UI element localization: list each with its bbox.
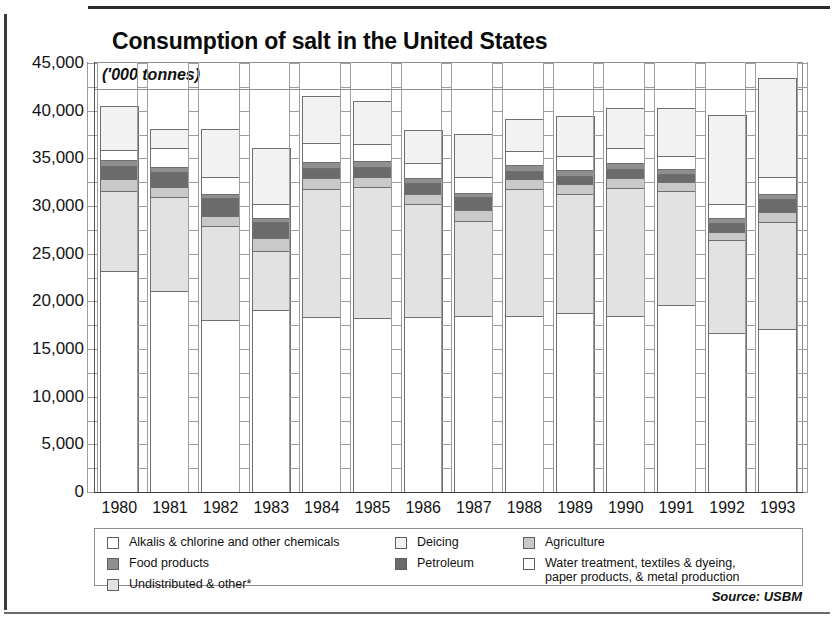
bar-segment[interactable] bbox=[606, 163, 645, 169]
bar-segment[interactable] bbox=[404, 163, 443, 178]
bar-segment[interactable] bbox=[353, 318, 392, 493]
bar-segment[interactable] bbox=[201, 177, 240, 193]
bar-column[interactable] bbox=[100, 62, 139, 493]
bar-column[interactable] bbox=[657, 62, 696, 493]
bar-segment[interactable] bbox=[708, 232, 747, 241]
bar-segment[interactable] bbox=[302, 178, 341, 188]
legend-item[interactable]: Alkalis & chlorine and other chemicals bbox=[107, 535, 407, 549]
bar-segment[interactable] bbox=[100, 106, 139, 150]
bar-segment[interactable] bbox=[505, 179, 544, 189]
bar-segment[interactable] bbox=[404, 183, 443, 193]
bar-segment[interactable] bbox=[505, 189, 544, 316]
bar-segment[interactable] bbox=[252, 218, 291, 223]
bar-segment[interactable] bbox=[150, 167, 189, 172]
legend-item[interactable]: Food products bbox=[107, 556, 407, 570]
bar-segment[interactable] bbox=[302, 317, 341, 493]
bar-column[interactable] bbox=[606, 62, 645, 493]
bar-segment[interactable] bbox=[353, 167, 392, 177]
bar-segment[interactable] bbox=[150, 187, 189, 197]
bar-segment[interactable] bbox=[252, 222, 291, 238]
bar-column[interactable] bbox=[302, 62, 341, 493]
bar-segment[interactable] bbox=[556, 156, 595, 170]
bar-segment[interactable] bbox=[708, 240, 747, 332]
bar-segment[interactable] bbox=[404, 130, 443, 163]
bar-segment[interactable] bbox=[252, 251, 291, 310]
bar-segment[interactable] bbox=[708, 218, 747, 223]
bar-segment[interactable] bbox=[657, 174, 696, 183]
bar-segment[interactable] bbox=[606, 169, 645, 179]
bar-segment[interactable] bbox=[758, 199, 797, 211]
bar-segment[interactable] bbox=[556, 116, 595, 155]
bar-segment[interactable] bbox=[758, 194, 797, 200]
bar-segment[interactable] bbox=[150, 291, 189, 493]
bar-segment[interactable] bbox=[201, 226, 240, 320]
bar-column[interactable] bbox=[353, 62, 392, 493]
bar-segment[interactable] bbox=[150, 148, 189, 167]
bar-column[interactable] bbox=[758, 62, 797, 493]
bar-segment[interactable] bbox=[150, 129, 189, 148]
bar-segment[interactable] bbox=[708, 223, 747, 232]
bar-segment[interactable] bbox=[454, 210, 493, 221]
bar-segment[interactable] bbox=[252, 148, 291, 204]
bar-segment[interactable] bbox=[201, 198, 240, 215]
bar-segment[interactable] bbox=[252, 204, 291, 217]
bar-column[interactable] bbox=[150, 62, 189, 493]
bar-segment[interactable] bbox=[100, 160, 139, 166]
bar-segment[interactable] bbox=[556, 313, 595, 493]
bar-segment[interactable] bbox=[657, 191, 696, 305]
bar-segment[interactable] bbox=[454, 197, 493, 209]
bar-segment[interactable] bbox=[252, 310, 291, 493]
bar-segment[interactable] bbox=[758, 78, 797, 177]
bar-segment[interactable] bbox=[454, 316, 493, 493]
bar-segment[interactable] bbox=[201, 194, 240, 199]
bar-segment[interactable] bbox=[404, 204, 443, 316]
bar-segment[interactable] bbox=[758, 212, 797, 222]
bar-segment[interactable] bbox=[758, 177, 797, 193]
bar-segment[interactable] bbox=[708, 204, 747, 218]
bar-segment[interactable] bbox=[100, 150, 139, 160]
bar-segment[interactable] bbox=[505, 119, 544, 150]
bar-segment[interactable] bbox=[150, 172, 189, 187]
bar-segment[interactable] bbox=[657, 169, 696, 174]
bar-segment[interactable] bbox=[606, 188, 645, 316]
bar-column[interactable] bbox=[708, 62, 747, 493]
bar-segment[interactable] bbox=[505, 171, 544, 180]
bar-segment[interactable] bbox=[657, 108, 696, 157]
bar-segment[interactable] bbox=[302, 168, 341, 178]
bar-segment[interactable] bbox=[404, 194, 443, 204]
bar-segment[interactable] bbox=[302, 162, 341, 168]
bar-segment[interactable] bbox=[657, 156, 696, 168]
bar-segment[interactable] bbox=[606, 316, 645, 493]
bar-segment[interactable] bbox=[353, 101, 392, 144]
bar-segment[interactable] bbox=[606, 178, 645, 188]
bar-segment[interactable] bbox=[556, 176, 595, 185]
bar-segment[interactable] bbox=[454, 177, 493, 193]
bar-column[interactable] bbox=[201, 62, 240, 493]
bar-segment[interactable] bbox=[505, 316, 544, 493]
bar-column[interactable] bbox=[505, 62, 544, 493]
bar-segment[interactable] bbox=[252, 238, 291, 250]
legend-item[interactable]: Water treatment, textiles & dyeing, pape… bbox=[523, 556, 793, 584]
bar-segment[interactable] bbox=[302, 189, 341, 317]
bar-column[interactable] bbox=[252, 62, 291, 493]
bar-segment[interactable] bbox=[657, 182, 696, 191]
bar-segment[interactable] bbox=[353, 161, 392, 167]
bar-segment[interactable] bbox=[606, 108, 645, 148]
bar-segment[interactable] bbox=[302, 143, 341, 162]
bar-segment[interactable] bbox=[606, 148, 645, 163]
bar-segment[interactable] bbox=[657, 305, 696, 493]
bar-segment[interactable] bbox=[201, 320, 240, 493]
bar-segment[interactable] bbox=[100, 271, 139, 493]
bar-segment[interactable] bbox=[556, 194, 595, 313]
bar-segment[interactable] bbox=[758, 222, 797, 329]
legend-item[interactable]: Undistributed & other* bbox=[107, 577, 407, 591]
bar-segment[interactable] bbox=[100, 179, 139, 190]
bar-segment[interactable] bbox=[302, 96, 341, 143]
bar-segment[interactable] bbox=[708, 115, 747, 204]
bar-segment[interactable] bbox=[454, 193, 493, 198]
bar-segment[interactable] bbox=[708, 333, 747, 493]
bar-segment[interactable] bbox=[353, 187, 392, 318]
bar-column[interactable] bbox=[556, 62, 595, 493]
bar-segment[interactable] bbox=[404, 178, 443, 183]
legend-item[interactable]: Agriculture bbox=[523, 535, 793, 549]
